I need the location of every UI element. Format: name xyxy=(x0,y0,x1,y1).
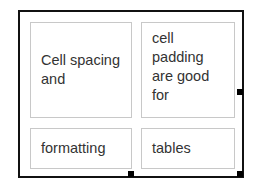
resize-handle-bottom[interactable] xyxy=(128,171,134,177)
table-cell-r2c2[interactable]: tables xyxy=(141,128,235,169)
selected-table[interactable]: Cell spacing and cell padding are good f… xyxy=(18,10,244,178)
table-cell-r2c1[interactable]: formatting xyxy=(30,128,132,169)
cell-text: cell padding are good for xyxy=(152,29,224,105)
table-cell-r1c1[interactable]: Cell spacing and xyxy=(30,22,132,118)
resize-handle-right[interactable] xyxy=(237,89,243,95)
cell-text: tables xyxy=(152,139,191,158)
table-cell-r1c2[interactable]: cell padding are good for xyxy=(141,22,235,118)
cell-text: Cell spacing and xyxy=(41,51,121,89)
cell-text: formatting xyxy=(41,139,105,158)
resize-handle-corner[interactable] xyxy=(237,171,243,177)
